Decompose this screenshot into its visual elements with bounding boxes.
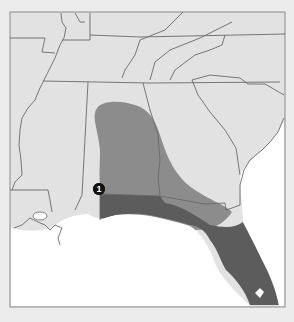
range-map (0, 0, 294, 322)
lake-pontchartrain (33, 212, 47, 220)
marker-label-1: 1 (93, 183, 105, 195)
